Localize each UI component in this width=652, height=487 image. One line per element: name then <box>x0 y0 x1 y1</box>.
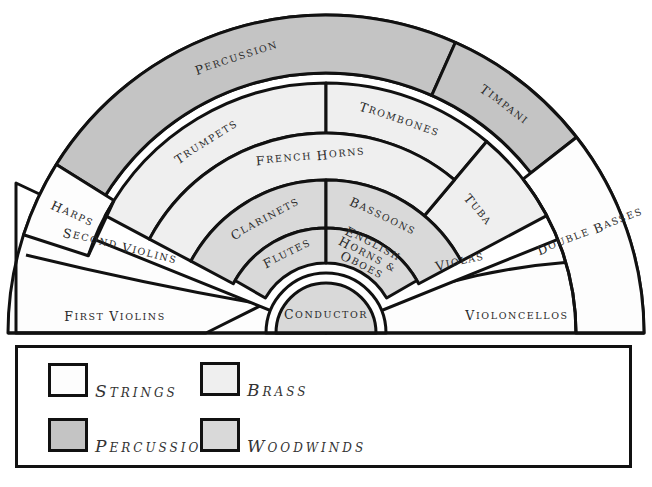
violoncellos-label: VIOLONCELLOS <box>464 308 568 323</box>
legend: STRINGS BRASS PERCUSSION WOODWINDS <box>15 345 632 468</box>
legend-label-woodwinds: WOODWINDS <box>247 436 366 456</box>
seating-regions <box>8 15 644 333</box>
legend-item-brass: BRASS <box>200 362 308 396</box>
percussion-swatch <box>48 418 88 452</box>
first-violins-label: FIRST VIOLINS <box>64 309 166 324</box>
legend-label-brass: BRASS <box>247 380 308 400</box>
brass-swatch <box>200 362 240 396</box>
legend-item-percussion: PERCUSSION <box>48 418 215 452</box>
legend-item-woodwinds: WOODWINDS <box>200 418 366 452</box>
strings-swatch <box>48 363 88 397</box>
legend-label-strings: STRINGS <box>95 381 178 401</box>
conductor-label: CONDUCTOR <box>284 307 368 322</box>
legend-item-strings: STRINGS <box>48 363 178 397</box>
legend-label-percussion: PERCUSSION <box>95 436 215 456</box>
woodwinds-swatch <box>200 418 240 452</box>
